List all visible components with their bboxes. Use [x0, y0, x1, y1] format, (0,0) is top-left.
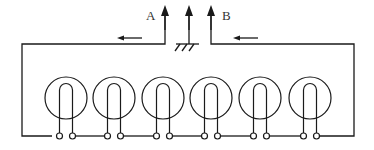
terminal-icon — [105, 133, 111, 139]
terminal-leads — [161, 5, 215, 30]
coil-6 — [289, 77, 331, 139]
terminal-icon — [154, 133, 160, 139]
coil-array — [45, 77, 331, 139]
terminal-a-label: A — [146, 8, 156, 23]
terminal-icon — [314, 133, 320, 139]
terminal-icon — [70, 133, 76, 139]
circuit-diagram: A B — [0, 0, 374, 150]
terminal-a-arrow-icon — [161, 5, 169, 30]
coil-winding-icon — [157, 84, 170, 134]
terminal-icon — [264, 133, 270, 139]
coil-winding-icon — [60, 84, 73, 134]
terminal-icon — [301, 133, 307, 139]
terminal-b-arrow-icon — [207, 5, 215, 30]
coil-winding-icon — [254, 84, 267, 134]
coil-winding-icon — [108, 84, 121, 134]
coil-winding-icon — [205, 84, 218, 134]
terminal-icon — [215, 133, 221, 139]
terminal-icon — [57, 133, 63, 139]
ground-icon — [175, 12, 199, 51]
current-arrow-right-icon — [233, 36, 258, 41]
current-direction-arrows — [117, 36, 258, 41]
terminal-icon — [167, 133, 173, 139]
terminal-icon — [251, 133, 257, 139]
terminal-icon — [202, 133, 208, 139]
terminal-icon — [118, 133, 124, 139]
terminal-b-label: B — [222, 8, 231, 23]
current-arrow-left-icon — [117, 36, 142, 41]
coil-winding-icon — [304, 84, 317, 134]
outer-loop-wire — [22, 12, 354, 136]
